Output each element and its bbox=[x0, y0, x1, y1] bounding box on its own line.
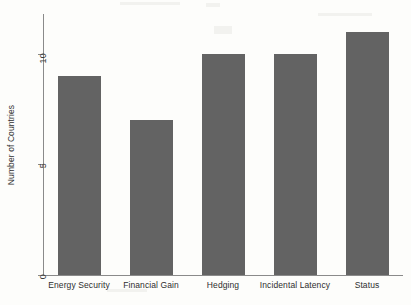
x-tick-label: Financial Gain bbox=[115, 280, 187, 290]
bar[interactable] bbox=[346, 32, 389, 275]
x-tick-label: Energy Security bbox=[43, 280, 115, 290]
x-tick-label: Incidental Latency bbox=[259, 280, 331, 290]
y-axis-title: Number of Countries bbox=[4, 14, 18, 276]
bar[interactable] bbox=[202, 54, 245, 275]
y-tick-label: 10 bbox=[38, 53, 48, 79]
y-axis-title-label: Number of Countries bbox=[6, 105, 16, 185]
bar[interactable] bbox=[274, 54, 317, 275]
bar[interactable] bbox=[130, 120, 173, 275]
scan-artifact bbox=[206, 3, 220, 7]
scan-artifact bbox=[120, 2, 180, 5]
bar-chart-figure: Number of Countries 0510 Energy Security… bbox=[0, 0, 411, 305]
bar[interactable] bbox=[58, 76, 101, 275]
plot-area: 0510 Energy SecurityFinancial GainHedgin… bbox=[43, 14, 403, 276]
x-tick-label: Status bbox=[331, 280, 403, 290]
y-tick-label: 5 bbox=[38, 163, 48, 189]
x-tick-label: Hedging bbox=[187, 280, 259, 290]
x-axis-line bbox=[43, 275, 403, 276]
